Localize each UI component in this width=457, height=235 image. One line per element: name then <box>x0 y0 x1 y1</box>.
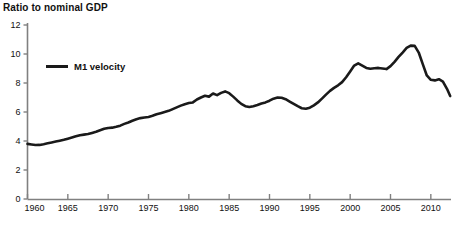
y-axis-ticks: 024681012 <box>10 20 27 204</box>
x-tick-label: 2000 <box>340 203 360 213</box>
y-tick-label: 4 <box>15 136 20 146</box>
x-tick-label: 2010 <box>421 203 441 213</box>
x-tick-label: 1965 <box>58 203 78 213</box>
y-tick-label: 8 <box>15 78 20 88</box>
y-tick-label: 2 <box>15 165 20 175</box>
y-tick-label: 12 <box>10 20 20 30</box>
y-tick-label: 0 <box>15 194 20 204</box>
chart-plot-area: 024681012 196019651970197519801985199019… <box>0 0 457 235</box>
x-tick-label: 1995 <box>300 203 320 213</box>
x-tick-label: 1975 <box>138 203 158 213</box>
chart-legend: M1 velocity <box>46 62 125 72</box>
x-tick-label: 1980 <box>179 203 199 213</box>
legend-label-m1-velocity: M1 velocity <box>74 62 125 72</box>
x-axis-ticks: 1960196519701975198019851990199520002005… <box>24 194 440 213</box>
chart-figure: Ratio to nominal GDP 024681012 196019651… <box>0 0 457 235</box>
x-tick-label: 1985 <box>219 203 239 213</box>
legend-line-swatch <box>46 65 68 68</box>
y-tick-label: 6 <box>15 107 20 117</box>
x-tick-label: 2005 <box>380 203 400 213</box>
x-tick-label: 1970 <box>98 203 118 213</box>
x-tick-label: 1960 <box>24 203 44 213</box>
y-tick-label: 10 <box>10 49 20 59</box>
x-tick-label: 1990 <box>259 203 279 213</box>
